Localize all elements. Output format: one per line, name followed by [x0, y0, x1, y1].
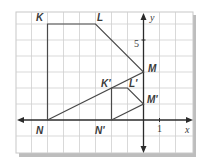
y-tick-label: 5	[134, 38, 139, 49]
vertex-label-n: N	[36, 125, 44, 136]
vertex-label-m: M	[148, 63, 157, 74]
vertex-label-l-prime: L'	[129, 78, 138, 89]
vertex-label-k: K	[36, 12, 44, 23]
diagram-canvas: y x 5 1 K L M N K' L' M' N'	[0, 0, 203, 162]
vertex-label-m-prime: M'	[147, 94, 158, 105]
y-axis-label: y	[149, 12, 155, 23]
coordinate-plane-figure: y x 5 1 K L M N K' L' M' N'	[0, 0, 203, 162]
x-tick-label: 1	[157, 123, 162, 134]
vertex-label-k-prime: K'	[101, 78, 111, 89]
x-axis-label: x	[184, 124, 190, 135]
vertex-label-l: L	[97, 12, 103, 23]
vertex-label-n-prime: N'	[95, 125, 105, 136]
